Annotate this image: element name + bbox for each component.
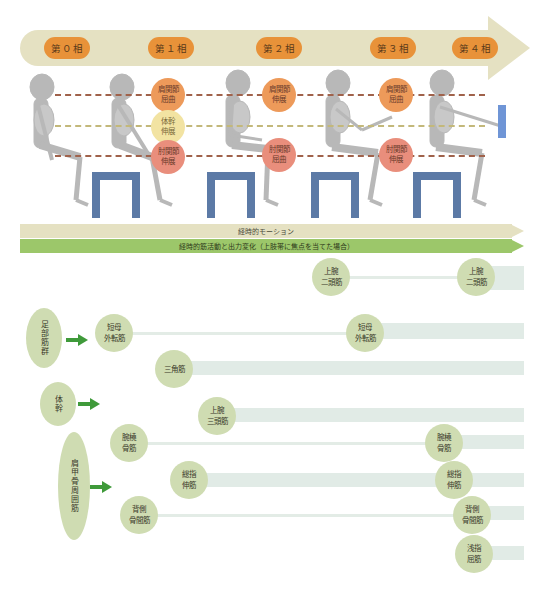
fds-node: 浅指 屈筋 <box>455 535 493 573</box>
phase-1-label: 第１相 <box>148 37 194 59</box>
apb-mid-node: 短母 外転筋 <box>346 314 384 352</box>
phase1-trunk-extension: 体幹 伸展 <box>151 110 185 144</box>
muscle-timeline-bar: 経時的筋活動と出力変化（上肢帯に焦点を当てた場合） <box>20 239 512 253</box>
apb-activity-band <box>370 323 524 339</box>
stool-phase-1-icon <box>207 172 255 218</box>
phase-3-label: 第３相 <box>370 37 416 59</box>
deltoid-activity-band <box>190 361 524 375</box>
stool-phase-3-icon <box>413 172 461 218</box>
muscle-timeline-arrowhead <box>510 239 524 253</box>
dorsal-interossei-start-node: 背側 骨間筋 <box>120 496 158 534</box>
phase1-elbow-extension: 肘関節 伸展 <box>151 140 185 174</box>
biceps-end-node: 上腕 二頭筋 <box>457 258 495 296</box>
dorsal-interossei-activity-line <box>150 514 460 517</box>
phase3-shoulder-flexion: 肩関節 屈曲 <box>379 78 413 112</box>
edc-start-node: 総指 伸筋 <box>170 461 208 499</box>
stool-phase-0-icon <box>92 172 140 218</box>
trunk-muscle-group: 体幹 <box>40 382 76 426</box>
edc-activity-band <box>205 473 524 487</box>
brachioradialis-start-node: 腕橈 骨筋 <box>110 424 148 462</box>
phase-0-label: 第０相 <box>44 37 90 59</box>
target-handle-icon <box>498 105 506 138</box>
phase-4-label: 第４相 <box>452 37 498 59</box>
trunk-group-arrow-icon <box>78 398 100 410</box>
biceps-activity-line <box>340 276 470 279</box>
triceps-node: 上腕 三頭筋 <box>198 397 236 435</box>
phase3-elbow-extension: 肘関節 伸展 <box>379 138 413 172</box>
apb-start-node: 短母 外転筋 <box>95 314 133 352</box>
scapular-group-arrow-icon <box>90 481 112 493</box>
brachioradialis-activity-band <box>455 435 524 449</box>
foot-muscle-group: 足部筋群 <box>26 308 62 368</box>
deltoid-node: 三角筋 <box>155 350 193 388</box>
dorsal-interossei-end-node: 背側 骨間筋 <box>453 496 491 534</box>
phase-2-label: 第２相 <box>256 37 302 59</box>
foot-group-arrow-icon <box>66 334 88 346</box>
trunk-level-line <box>55 125 485 127</box>
brachioradialis-activity-line <box>145 442 435 445</box>
motion-timeline-bar: 経時的モーション <box>20 224 512 238</box>
motion-timeline-arrowhead <box>510 224 524 238</box>
phase1-shoulder-flexion: 肩関節 屈曲 <box>151 78 185 112</box>
stool-phase-2-icon <box>311 172 359 218</box>
phase2-elbow-flexion: 肘関節 屈曲 <box>262 138 296 172</box>
biceps-start-node: 上腕 二頭筋 <box>312 258 350 296</box>
brachioradialis-end-node: 腕橈 骨筋 <box>425 424 463 462</box>
apb-activity-line <box>130 332 350 335</box>
scapular-muscle-group: 肩甲骨周囲筋 <box>58 432 90 540</box>
phase-timeline-arrow <box>20 30 490 66</box>
triceps-activity-band <box>230 408 524 422</box>
phase2-shoulder-extension: 肩関節 伸展 <box>262 78 296 112</box>
edc-end-node: 総指 伸筋 <box>435 461 473 499</box>
